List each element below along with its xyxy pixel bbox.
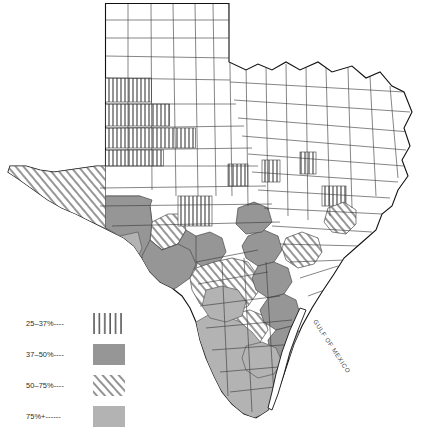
texas-county-map-figure: GULF OF MEXICO 25–37%---- 37–50%---- 50–… <box>0 0 422 436</box>
map-legend: 25–37%---- 37–50%---- 50–75%---- 75%+---… <box>26 308 134 432</box>
legend-label-37-50: 37–50%---- <box>26 350 93 359</box>
legend-swatch-light-gray <box>93 406 125 427</box>
legend-label-50-75: 50–75%---- <box>26 381 93 390</box>
legend-swatch-diagonal-hatch <box>93 375 125 396</box>
legend-label-75-plus: 75%+------ <box>26 412 93 421</box>
legend-row-25-37: 25–37%---- <box>26 308 134 339</box>
legend-swatch-vertical-hatch <box>93 313 125 334</box>
legend-label-25-37: 25–37%---- <box>26 319 93 328</box>
legend-swatch-dark-gray <box>93 344 125 365</box>
legend-row-37-50: 37–50%---- <box>26 339 134 370</box>
legend-row-75-plus: 75%+------ <box>26 401 134 432</box>
legend-row-50-75: 50–75%---- <box>26 370 134 401</box>
